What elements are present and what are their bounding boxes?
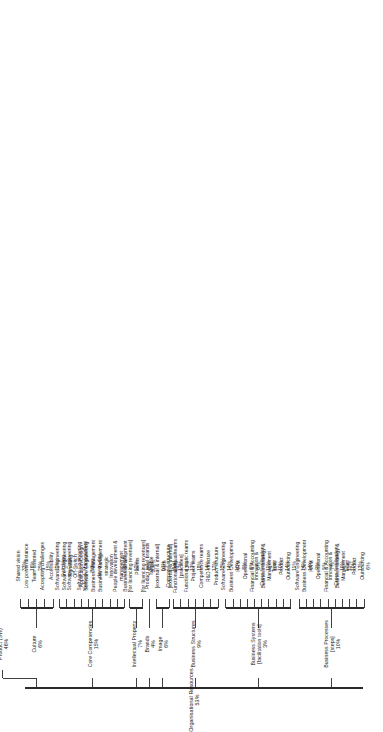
branch-node-2: Intellectual Property 7%: [130, 621, 142, 668]
branch-node-0: Culture 6%: [30, 635, 42, 652]
branch-node-7: Business Processes [steps] 10%: [322, 620, 340, 668]
branch-node-6: Business Systems [facilitation tools] 3%: [249, 622, 267, 665]
branch-node-4: Image 6%: [156, 637, 168, 652]
branch-node-5: Business Structures 9%: [189, 620, 201, 667]
leaf-node-7-9: Outsourcing 6%: [358, 552, 370, 580]
root-node: Organisational Resources 53%: [187, 668, 199, 731]
branch-node-3: Brands 4%: [143, 636, 155, 653]
branch-node-1: Core Competencies 15%: [86, 621, 98, 668]
branch-sibling-product-sw: Product (SW) 46%: [0, 628, 8, 660]
